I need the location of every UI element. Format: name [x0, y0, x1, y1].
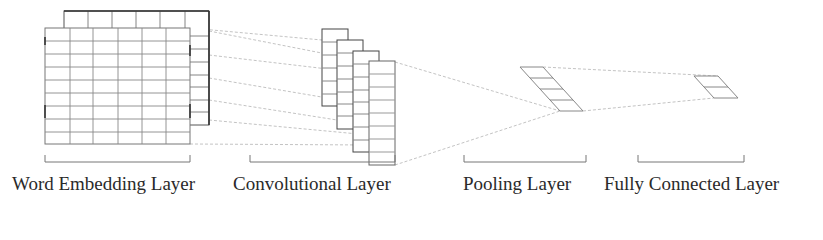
embedding-front-grid [45, 28, 190, 144]
layer-brackets [45, 155, 744, 162]
label-convolutional-layer: Convolutional Layer [233, 173, 391, 195]
label-pooling-layer: Pooling Layer [463, 173, 571, 195]
bracket-pooling [464, 155, 586, 162]
pooling-vector [520, 67, 583, 111]
fully-connected-vector [694, 76, 738, 98]
feature-map-4 [369, 61, 395, 165]
label-word-embedding-layer: Word Embedding Layer [12, 173, 195, 195]
bracket-embedding [45, 155, 190, 162]
connector-lines [190, 28, 718, 165]
label-fully-connected-layer: Fully Connected Layer [604, 173, 779, 195]
bracket-fully-connected [638, 155, 744, 162]
